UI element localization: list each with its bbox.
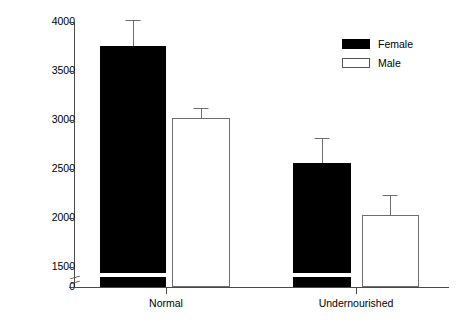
error-bar-stem-female-undernourished — [322, 138, 323, 163]
error-bar-stem-male-normal — [201, 108, 202, 118]
y-tick-4000: 4000 — [0, 22, 75, 23]
y-tick-mark — [69, 218, 75, 219]
legend-swatch-male — [342, 58, 370, 68]
y-axis-line — [74, 22, 75, 288]
x-tick-mark — [166, 288, 167, 294]
y-tick-2000: 2000 — [0, 218, 75, 219]
bar-male-undernourished — [362, 215, 419, 287]
y-tick-2500: 2500 — [0, 169, 75, 170]
legend-label: Female — [378, 38, 413, 50]
legend-item-male: Male — [342, 55, 413, 71]
y-tick-1500: 1500 — [0, 267, 75, 268]
legend-item-female: Female — [342, 36, 413, 52]
error-bar-cap-male-undernourished — [383, 195, 398, 196]
legend-swatch-female — [342, 39, 370, 49]
y-tick-mark — [69, 120, 75, 121]
bar-female-undernourished — [293, 163, 351, 287]
bar-chart: Distance (cm) 4000350030002500200015000 … — [0, 0, 467, 323]
bar-break-female-undernourished — [293, 273, 351, 277]
bar-break-female-normal — [100, 273, 166, 277]
x-axis-line — [74, 287, 449, 288]
x-tick-mark — [356, 288, 357, 294]
bar-male-normal — [172, 118, 230, 287]
y-tick-mark — [69, 22, 75, 23]
y-tick-mark — [69, 169, 75, 170]
y-tick-mark — [69, 71, 75, 72]
y-tick-3000: 3000 — [0, 120, 75, 121]
y-tick-3500: 3500 — [0, 71, 75, 72]
error-bar-stem-female-normal — [133, 20, 134, 46]
error-bar-cap-male-normal — [194, 108, 209, 109]
legend-label: Male — [378, 57, 401, 69]
error-bar-cap-female-undernourished — [315, 138, 330, 139]
y-axis-break-icon — [70, 273, 80, 287]
y-tick-mark — [69, 287, 75, 288]
y-tick-0: 0 — [0, 287, 75, 288]
error-bar-stem-male-undernourished — [390, 195, 391, 215]
legend: FemaleMale — [342, 36, 413, 74]
x-tick-label-normal: Normal — [149, 297, 183, 309]
x-tick-label-undernourished: Undernourished — [319, 297, 394, 309]
error-bar-cap-female-normal — [126, 20, 141, 21]
y-tick-mark — [69, 267, 75, 268]
bar-female-normal — [100, 46, 166, 287]
